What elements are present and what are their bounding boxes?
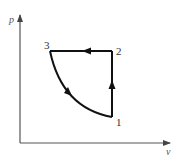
arrow-1-2-icon (109, 80, 116, 89)
pv-diagram: p v 3 2 1 (0, 0, 185, 163)
point-label-3: 3 (44, 39, 50, 51)
y-axis-label: p (8, 14, 14, 25)
x-axis-label: v (166, 146, 171, 157)
arrow-2-3-icon (82, 48, 91, 55)
point-label-1: 1 (116, 116, 122, 128)
process-3-1 (50, 51, 112, 117)
point-label-2: 2 (116, 45, 122, 57)
